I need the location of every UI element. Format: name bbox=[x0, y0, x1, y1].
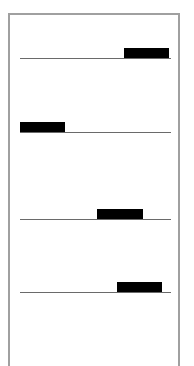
track-line-4 bbox=[20, 292, 171, 293]
redacted-block-3 bbox=[97, 209, 143, 219]
track-line-1 bbox=[20, 58, 171, 59]
redacted-block-4 bbox=[117, 282, 162, 292]
track-line-2 bbox=[20, 132, 171, 133]
redacted-block-2 bbox=[20, 122, 65, 132]
track-line-3 bbox=[20, 219, 171, 220]
redacted-block-1 bbox=[124, 48, 169, 58]
diagram-frame bbox=[8, 13, 180, 366]
